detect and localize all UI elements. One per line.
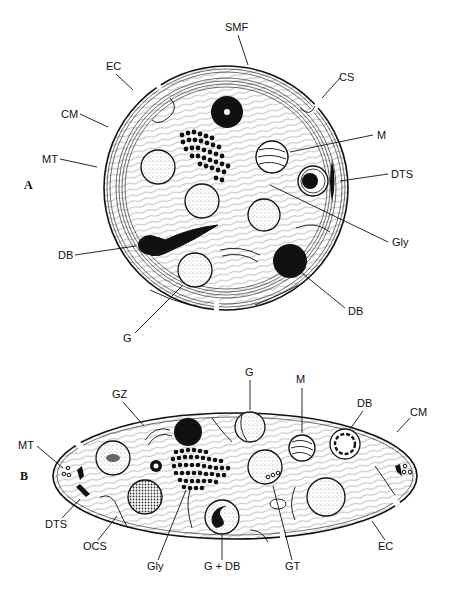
leader-ec-a — [116, 74, 133, 90]
label-cm-a: CM — [61, 108, 78, 120]
alpha-granule-g-a — [178, 253, 212, 287]
label-db-right-a: DB — [348, 305, 363, 317]
leader-cm-a — [80, 114, 108, 127]
leader-cs-a — [322, 78, 340, 98]
alpha-granule-dense-b — [128, 480, 162, 514]
label-db-left-a: DB — [58, 249, 73, 261]
mitochondrion-a — [256, 141, 288, 173]
label-smf-a: SMF — [225, 21, 249, 33]
leader-gz-b — [123, 402, 144, 426]
label-cm-b: CM — [410, 406, 427, 418]
granule-with-tubules-b — [248, 450, 282, 484]
small-ring-granule-b — [150, 460, 162, 472]
dense-body-b1 — [174, 418, 202, 446]
leader-ec-b — [372, 521, 385, 540]
leader-db-b — [350, 411, 363, 429]
leader-smf-a — [238, 35, 248, 65]
dense-body-a — [273, 244, 307, 278]
label-g-db-b: G + DB — [204, 560, 240, 572]
label-g-b: G — [245, 366, 254, 378]
label-mt-b: MT — [18, 439, 34, 451]
platelet-diagram: A — [0, 0, 458, 594]
alpha-granule-a3 — [248, 199, 280, 231]
alpha-granule-a1 — [141, 150, 175, 184]
leader-mt-a — [60, 159, 97, 167]
dense-body-ring-a — [211, 96, 243, 128]
label-gly-a: Gly — [392, 236, 409, 248]
label-m-b: M — [296, 373, 305, 385]
alpha-granule-a2 — [185, 184, 219, 218]
leader-db-right-a — [302, 273, 345, 308]
label-gly-b: Gly — [147, 560, 164, 572]
granule-nucleoid-b1 — [106, 454, 120, 462]
panel-b-label: B — [20, 469, 28, 483]
panel-a: A — [24, 21, 413, 344]
leader-cm-b — [397, 418, 410, 432]
leader-mt-b — [37, 446, 63, 468]
label-cs-a: CS — [339, 71, 354, 83]
label-gt-b: GT — [285, 560, 301, 572]
alpha-granule-g-b — [235, 412, 265, 442]
label-g-a: G — [123, 332, 132, 344]
label-dts-b: DTS — [45, 518, 67, 530]
alpha-granule-b-large — [307, 478, 345, 516]
label-m-a: M — [377, 129, 386, 141]
dense-body-ring-b — [330, 429, 360, 459]
label-db-b: DB — [357, 397, 372, 409]
label-ec-b: EC — [378, 540, 393, 552]
dts-granule-a — [298, 166, 328, 196]
mitochondrion-b — [289, 435, 315, 461]
panel-b: B — [18, 366, 427, 572]
label-gz-b: GZ — [112, 388, 128, 400]
label-mt-a: MT — [42, 153, 58, 165]
leader-g-a — [135, 285, 183, 333]
label-ec-a: EC — [106, 60, 121, 72]
label-dts-a: DTS — [391, 168, 413, 180]
granule-plus-dense-body-b — [205, 500, 239, 534]
label-ocs-b: OCS — [83, 540, 107, 552]
panel-a-label: A — [24, 178, 33, 192]
